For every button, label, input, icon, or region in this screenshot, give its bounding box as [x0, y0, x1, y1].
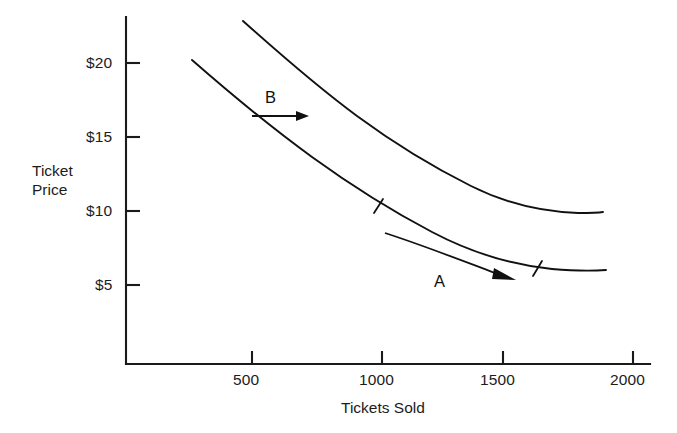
chart-figure: $20 $15 $10 $5 500 1000 1500 2000 Ticket… [0, 0, 677, 433]
x-tick-label-2000: 2000 [610, 371, 645, 389]
y-tick-label-5: $5 [95, 276, 112, 294]
x-tick-label-1000: 1000 [359, 371, 394, 389]
y-tick-label-20: $20 [86, 54, 112, 72]
y-tick-label-10: $10 [86, 202, 112, 220]
x-tick-label-1500: 1500 [480, 371, 515, 389]
original-demand-curve [192, 60, 606, 271]
shift-arrow-b-head [296, 111, 309, 121]
x-tick-label-500: 500 [233, 371, 259, 389]
annotation-label-b: B [265, 88, 276, 107]
movement-arrow-a-head [492, 268, 516, 280]
annotation-label-a: A [434, 272, 445, 291]
y-axis-title-line2: Price [32, 180, 67, 199]
y-tick-label-15: $15 [86, 128, 112, 146]
y-axis-title-line1: Ticket [32, 161, 73, 180]
x-axis-title: Tickets Sold [341, 399, 425, 417]
